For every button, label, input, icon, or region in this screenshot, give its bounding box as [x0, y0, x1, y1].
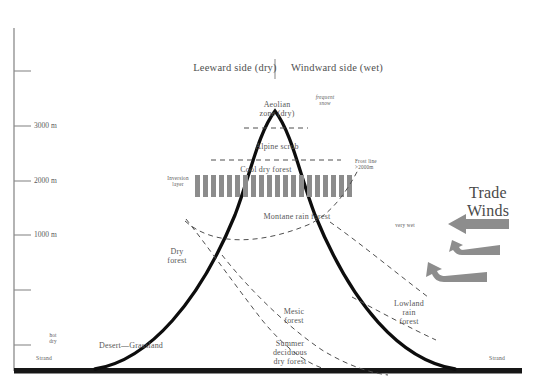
lowland-rain-forest-label: Lowland rain forest — [394, 299, 424, 327]
mesic-forest-label: Mesic forest — [284, 307, 305, 325]
hot-dry-label: hot dry — [49, 333, 57, 345]
very-wet-label: very wet — [395, 223, 415, 229]
axis-label-2000m: 2000 m — [34, 176, 57, 185]
summer-deciduous-dry-forest-label: Summer deciduous dry forest — [273, 339, 307, 367]
trade-wind-arrows — [426, 214, 509, 282]
frost-line-label: Frost line >2000m — [355, 159, 377, 171]
lowland-rainforest-boundary-dashed — [330, 222, 428, 297]
mountain-zonation-diagram: 3000 m 2000 m 1000 m Leeward side (dry) … — [0, 0, 536, 387]
strand-right-label: Strand — [489, 355, 505, 361]
frequent-snow-label: frequent snow — [316, 95, 335, 107]
axis-ticks — [14, 71, 31, 345]
axis-label-1000m: 1000 m — [34, 230, 57, 239]
desert-grassland-label: Desert—Grassland — [99, 341, 163, 350]
leeward-side-label: Leeward side (dry) — [193, 62, 276, 74]
trade-winds-label: Trade Winds — [467, 184, 509, 221]
trade-wind-arrow-bottom — [426, 262, 487, 282]
inversion-layer-label: Inversion layer — [167, 176, 188, 188]
strand-left-label: Strand — [36, 355, 52, 361]
cool-dry-forest-tree-bars — [195, 175, 352, 197]
windward-side-label: Windward side (wet) — [291, 62, 383, 74]
montane-rain-forest-label: Montane rain forest — [264, 212, 331, 221]
dry-forest-label: Dry forest — [167, 247, 186, 265]
ground-line — [14, 368, 522, 374]
aeolian-zone-label: Aeolian zone (dry) — [259, 100, 294, 118]
alpine-scrub-label: Alpine scrub — [255, 142, 299, 151]
cool-dry-forest-label: Cool dry forest — [240, 165, 291, 174]
axis-label-3000m: 3000 m — [34, 121, 57, 130]
trade-wind-arrow-middle — [449, 240, 500, 255]
diagram-vector-layer — [0, 0, 536, 387]
